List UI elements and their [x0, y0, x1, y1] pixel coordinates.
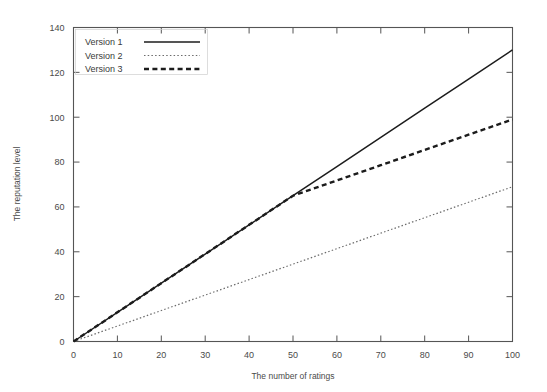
y-axis-title: The reputation level — [12, 147, 22, 222]
legend-label-3: Version 3 — [85, 64, 123, 74]
y-axis-tick-labels: 020406080100120140 — [49, 23, 64, 347]
y-tick-label: 120 — [49, 68, 64, 78]
y-tick-label: 0 — [59, 337, 64, 347]
reputation-level-chart: 020406080100120140 010203040506070809010… — [0, 0, 547, 392]
series-line-version-3 — [74, 119, 513, 341]
chart-canvas: 020406080100120140 010203040506070809010… — [0, 0, 547, 392]
x-tick-label: 10 — [112, 350, 122, 360]
x-tick-label: 20 — [156, 350, 166, 360]
y-tick-label: 60 — [54, 202, 64, 212]
y-tick-label: 140 — [49, 23, 64, 33]
series-line-version-2 — [74, 187, 513, 342]
x-tick-label: 90 — [464, 350, 474, 360]
y-tick-label: 40 — [54, 247, 64, 257]
x-tick-label: 100 — [505, 350, 520, 360]
x-axis-title: The number of ratings — [251, 371, 334, 381]
y-tick-label: 20 — [54, 292, 64, 302]
x-tick-label: 80 — [420, 350, 430, 360]
x-tick-label: 50 — [288, 350, 298, 360]
y-tick-label: 100 — [49, 113, 64, 123]
x-tick-label: 0 — [71, 350, 76, 360]
legend-label-2: Version 2 — [85, 51, 123, 61]
legend-label-1: Version 1 — [85, 37, 123, 47]
chart-legend: Version 1Version 2Version 3 — [76, 30, 208, 75]
x-tick-label: 40 — [244, 350, 254, 360]
x-axis-tick-labels: 0102030405060708090100 — [71, 350, 520, 360]
x-tick-label: 30 — [200, 350, 210, 360]
x-tick-label: 60 — [332, 350, 342, 360]
y-tick-label: 80 — [54, 157, 64, 167]
x-tick-label: 70 — [376, 350, 386, 360]
